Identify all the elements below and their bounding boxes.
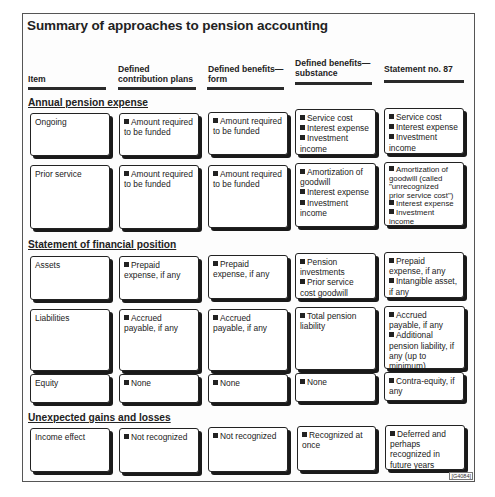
cell-item-income-effect: Income effect: [30, 428, 110, 472]
bullet-icon: [124, 119, 129, 124]
bullet-icon: [389, 166, 394, 171]
cell-dbs-income-effect: Recognized at once: [297, 426, 376, 471]
bullet-icon: [389, 312, 394, 317]
cell-s87-liabilities: Accrued payable, if any Additional pensi…: [384, 306, 465, 369]
bullet-icon: [300, 259, 305, 264]
cell-dbs-prior-service: Amortization of goodwill Interest expens…: [295, 163, 376, 227]
cell-s87-equity: Contra-equity, if any: [384, 372, 464, 401]
bullet-icon: [300, 189, 305, 194]
cell-s87-assets: Prepaid expense, if any Intangible asset…: [384, 252, 464, 298]
col-header-db-form: Defined benefits—form: [208, 64, 283, 84]
bullet-icon: [300, 379, 305, 384]
cell-dc-ongoing: Amount required to be funded: [119, 113, 199, 156]
bullet-icon: [124, 434, 129, 439]
bullet-icon: [213, 433, 218, 438]
col-header-db-substance: Defined benefits—substance: [295, 58, 370, 78]
cell-dc-prior-service: Amount required to be funded: [119, 165, 199, 229]
bullet-icon: [389, 378, 394, 383]
cell-dbs-liabilities: Total pension liability: [295, 307, 376, 370]
cell-dbf-liabilities: Accrued payable, if any: [208, 309, 288, 371]
bullet-icon: [389, 124, 394, 129]
bullet-icon: [300, 125, 305, 130]
cell-dbs-equity: None: [295, 373, 376, 402]
bullet-icon: [300, 279, 305, 284]
figure-title: Summary of approaches to pension account…: [27, 18, 328, 33]
bullet-icon: [389, 114, 394, 119]
figure-code: [G4084]: [449, 472, 473, 480]
bullet-icon: [389, 209, 394, 214]
bullet-icon: [389, 134, 394, 139]
bullet-icon: [213, 171, 218, 176]
cell-dc-liabilities: Accrued payable, if any: [119, 309, 199, 371]
section-unexpected-gains-losses: Unexpected gains and losses: [28, 412, 171, 423]
cell-dbs-assets: Pension investments Prior service cost g…: [295, 253, 376, 299]
cell-dc-income-effect: Not recognized: [119, 428, 199, 473]
col-underline: [28, 87, 106, 90]
bullet-icon: [124, 315, 129, 320]
cell-item-liabilities: Liabilities: [30, 309, 110, 371]
cell-item-ongoing: Ongoing: [30, 113, 110, 156]
cell-s87-income-effect: Deferred and perhaps recognized in futur…: [385, 425, 465, 470]
bullet-icon: [213, 315, 218, 320]
section-statement-financial-position: Statement of financial position: [28, 239, 176, 250]
cell-dbf-ongoing: Amount required to be funded: [208, 112, 288, 155]
bullet-icon: [124, 380, 129, 385]
col-underline: [118, 87, 196, 90]
cell-s87-prior-service: Amortization of goodwill (called "unreco…: [384, 162, 464, 226]
col-header-item: Item: [28, 64, 46, 84]
cell-dbf-equity: None: [208, 374, 288, 403]
bullet-icon: [300, 169, 305, 174]
col-underline: [295, 82, 372, 85]
col-underline: [384, 80, 464, 83]
cell-dbf-assets: Prepaid expense, if any: [208, 255, 288, 299]
bullet-icon: [124, 262, 129, 267]
cell-item-prior-service: Prior service: [30, 165, 110, 229]
cell-dc-equity: None: [119, 374, 199, 403]
bullet-icon: [300, 135, 305, 140]
col-header-defined-contribution: Definedcontribution plans: [118, 64, 193, 84]
bullet-icon: [389, 258, 394, 263]
cell-dbf-prior-service: Amount required to be funded: [208, 165, 288, 228]
bullet-icon: [300, 200, 305, 205]
bullet-icon: [213, 261, 218, 266]
cell-dc-assets: Prepaid expense, if any: [119, 256, 199, 300]
cell-s87-ongoing: Service cost Interest expense Investment…: [384, 108, 464, 154]
bullet-icon: [389, 200, 394, 205]
bullet-icon: [300, 115, 305, 120]
bullet-icon: [213, 118, 218, 123]
bullet-icon: [302, 432, 307, 437]
section-annual-pension-expense: Annual pension expense: [28, 97, 148, 108]
bullet-icon: [390, 431, 395, 436]
cell-dbf-income-effect: Not recognized: [208, 427, 288, 472]
bullet-icon: [300, 313, 305, 318]
bullet-icon: [389, 278, 394, 283]
cell-dbs-ongoing: Service cost Interest expense Investment…: [295, 109, 376, 155]
col-header-statement-87: Statement no. 87: [384, 64, 453, 74]
bullet-icon: [389, 332, 394, 337]
cell-item-assets: Assets: [30, 256, 110, 300]
bullet-icon: [213, 380, 218, 385]
bullet-icon: [124, 171, 129, 176]
cell-item-equity: Equity: [30, 374, 110, 403]
col-underline: [207, 87, 284, 90]
